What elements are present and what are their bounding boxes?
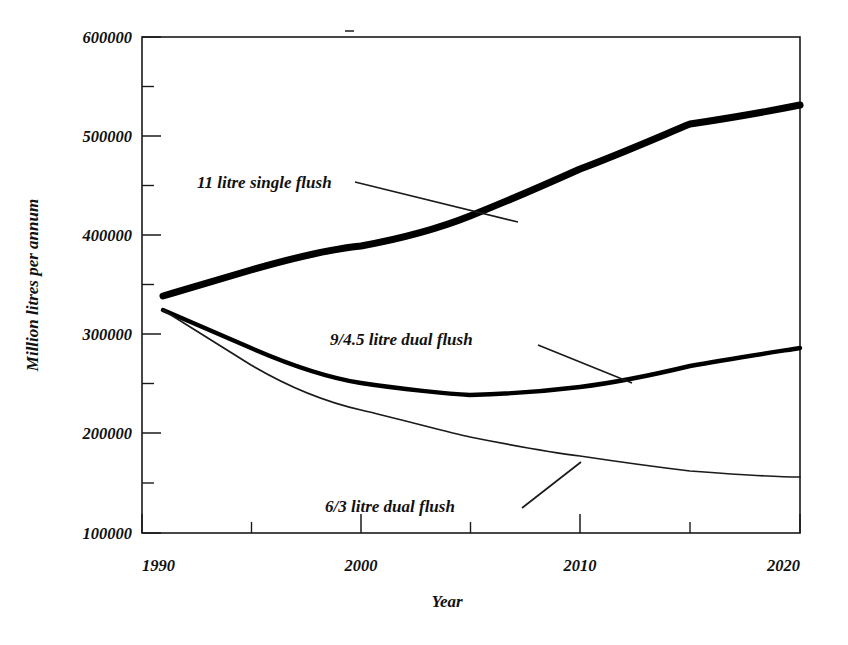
series-label-11-litre-single-flush: 11 litre single flush [197,173,332,192]
y-tick-label-100000: 100000 [83,524,133,543]
x-axis-title: Year [431,592,463,611]
y-tick-label-200000: 200000 [82,424,133,443]
leader-line-6-3-litre-dual-flush [522,462,581,508]
x-tick-label-2000: 2000 [344,556,378,575]
y-tick-label-300000: 300000 [82,325,133,344]
x-tick-label-1990: 1990 [142,556,175,575]
leader-line-9-4-5-litre-dual-flush [538,345,632,383]
series-label-9-4-5-litre-dual-flush: 9/4.5 litre dual flush [330,330,473,349]
y-axis-title: Million litres per annum [23,199,42,372]
x-axis-minor-ticks [252,522,691,533]
print-speck [345,30,354,32]
series-line-11-litre-single-flush [163,105,800,296]
x-tick-label-2020: 2020 [766,556,800,575]
x-tick-label-2010: 2010 [563,556,597,575]
leader-line-11-litre-single-flush [355,182,518,222]
series-line-9-4-5-litre-dual-flush [163,310,800,395]
plot-frame [142,37,800,533]
series-label-6-3-litre-dual-flush: 6/3 litre dual flush [325,497,455,516]
x-axis-tick-labels: 1990 2000 2010 2020 [142,556,800,575]
annotation-9-4-5-litre-dual-flush: 9/4.5 litre dual flush [330,330,632,383]
annotation-6-3-litre-dual-flush: 6/3 litre dual flush [325,462,581,516]
line-chart: 600000 500000 400000 300000 200000 10000… [0,0,848,645]
y-axis-tick-labels: 600000 500000 400000 300000 200000 10000… [82,28,133,543]
y-tick-label-600000: 600000 [83,28,133,47]
y-tick-label-400000: 400000 [82,226,133,245]
chart-figure: 600000 500000 400000 300000 200000 10000… [0,0,848,645]
y-axis-minor-ticks [142,87,154,484]
y-tick-label-500000: 500000 [83,127,133,146]
